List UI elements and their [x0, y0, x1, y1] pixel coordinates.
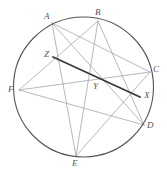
geometry-canvas [0, 0, 167, 174]
chord-A-C [52, 23, 150, 72]
point-label-Y: Y [93, 82, 98, 91]
chord-B-F [19, 21, 98, 90]
chord-A-D [52, 23, 144, 125]
segment-Z-X [53, 57, 140, 97]
highlight-segment-layer [53, 57, 140, 97]
point-label-A: A [44, 12, 50, 21]
point-label-B: B [95, 8, 101, 17]
geometry-figure: ABCDEFXYZ [0, 0, 167, 174]
chord-D-F [19, 90, 144, 125]
point-label-E: E [72, 159, 78, 168]
chord-layer [19, 21, 150, 156]
point-label-Z: Z [44, 50, 49, 59]
point-label-X: X [144, 91, 150, 100]
chord-C-F [19, 72, 150, 90]
point-label-C: C [153, 65, 159, 74]
point-label-D: D [147, 121, 154, 130]
chord-B-D [98, 21, 144, 125]
main-circle [14, 17, 154, 157]
point-label-F: F [8, 85, 14, 94]
